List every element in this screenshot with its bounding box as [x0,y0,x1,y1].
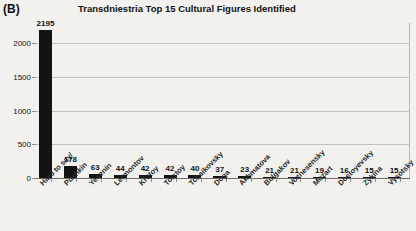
y-axis-tick-mark [32,144,36,145]
gridline [36,111,410,112]
gridline [36,144,410,145]
y-axis-tick-mark [32,111,36,112]
y-axis-tick-label: 1500 [1,72,31,81]
gridline [36,77,410,78]
y-axis-tick-label: 2000 [1,39,31,48]
y-axis-tick-mark [32,77,36,78]
x-axis-tick [325,179,326,182]
x-axis-tick [76,179,77,182]
panel-label: (B) [3,2,20,16]
x-axis-tick [101,179,102,182]
y-axis-tick-label: 0 [1,174,31,183]
chart-figure: (B) Transdniestria Top 15 Cultural Figur… [0,0,416,231]
y-axis-tick-label: 1000 [1,106,31,115]
y-axis-tick-label: 500 [1,140,31,149]
x-axis-category-labels: Hard to say/PushkinYeseninLermontovKruto… [36,0,416,53]
x-axis-tick [350,179,351,182]
